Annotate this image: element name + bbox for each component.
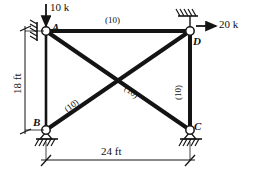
truss-members [46, 31, 190, 130]
joint-C [186, 126, 194, 134]
truss-diagram-figure: A D B C (10) (10) (10) (10) 10 k 20 k 18… [0, 0, 258, 178]
node-label-C: C [194, 121, 201, 132]
member-label-DC: (10) [174, 85, 183, 100]
dimension-label-height: 18 ft [12, 74, 23, 94]
support-A-wall [30, 20, 37, 41]
joint-D [186, 27, 194, 35]
node-label-D: D [193, 36, 201, 47]
member-label-AD: (10) [105, 16, 120, 25]
node-label-B: B [33, 117, 40, 128]
load-label-10k: 10 k [50, 2, 69, 13]
load-label-20k: 20 k [219, 19, 238, 30]
dimension-label-width: 24 ft [101, 146, 121, 157]
node-label-A: A [52, 22, 59, 33]
